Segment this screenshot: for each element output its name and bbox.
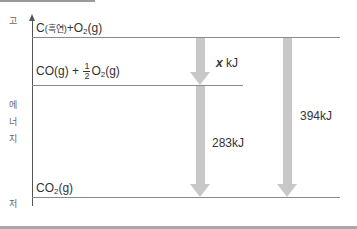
arrow-394-shaft <box>283 38 292 185</box>
state: (g) <box>58 181 73 195</box>
level-line-middle <box>32 85 243 86</box>
level-line-bottom <box>32 197 340 198</box>
level-label-top: C(흑연)+O2(g) <box>36 21 102 36</box>
unit: kJ <box>226 56 238 70</box>
species-co2: CO <box>36 181 54 195</box>
frac-den: 2 <box>83 72 90 81</box>
bottom-divider <box>0 226 357 229</box>
arrow-x-label: x kJ <box>216 56 238 70</box>
arrow-283-label: 283kJ <box>212 136 244 150</box>
arrow-down-icon <box>277 184 297 197</box>
species-o: O <box>91 64 100 78</box>
state: (g) <box>105 64 120 78</box>
axis-label-low: 저 <box>6 197 20 210</box>
top-divider <box>0 0 95 2</box>
axis-label-high: 고 <box>6 14 20 27</box>
species-co: CO(g) <box>36 64 69 78</box>
species-c: C <box>36 21 45 35</box>
axis-label-energy-3: 지 <box>6 132 20 145</box>
arrow-down-icon <box>190 184 210 197</box>
level-label-middle: CO(g) + 12O2(g) <box>36 62 120 81</box>
variable-x: x <box>216 56 223 70</box>
level-label-bottom: CO2(g) <box>36 181 73 196</box>
arrow-394-label: 394kJ <box>300 109 332 123</box>
energy-axis <box>32 20 33 206</box>
graphite-note: (흑연) <box>45 24 67 34</box>
axis-label-energy-2: 너 <box>6 115 20 128</box>
level-line-top <box>32 37 340 38</box>
arrow-x-shaft <box>196 38 205 73</box>
fraction-half: 12 <box>83 62 90 81</box>
plus-sign: + <box>72 64 79 78</box>
state: (g) <box>87 21 102 35</box>
arrow-283-shaft <box>196 86 205 185</box>
arrow-down-icon <box>190 72 210 85</box>
plus-sign: + <box>67 21 74 35</box>
axis-label-energy-1: 에 <box>6 98 20 111</box>
species-o: O <box>74 21 83 35</box>
